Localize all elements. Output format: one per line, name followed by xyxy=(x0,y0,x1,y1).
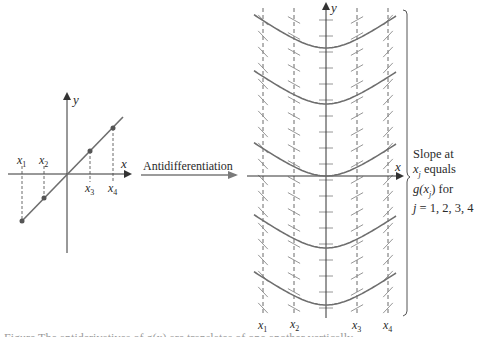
slope-mark xyxy=(258,207,268,217)
slope-mark xyxy=(383,111,393,121)
slope-note-line3: g(xj) for xyxy=(413,182,480,202)
antidifferentiation-label: Antidifferentiation xyxy=(143,159,233,173)
left-x-label: x xyxy=(120,156,127,171)
slope-note-line4: j = 1, 2, 3, 4 xyxy=(413,201,480,216)
slope-mark xyxy=(288,273,300,280)
slope-mark xyxy=(258,111,268,121)
point-x1 xyxy=(20,219,25,224)
slope-note-line2: xj equals xyxy=(413,162,480,182)
antiderivative-curve xyxy=(254,272,396,305)
point-x4 xyxy=(111,126,116,131)
left-label-x2: x2 xyxy=(38,153,48,169)
derivative-line xyxy=(21,117,123,222)
figure-caption: Figure The antiderivatives of g(x) are t… xyxy=(4,331,480,337)
slope-mark xyxy=(258,223,268,233)
right-y-label: y xyxy=(329,0,337,15)
slope-mark xyxy=(383,47,393,57)
right-x-label: x xyxy=(394,159,401,174)
antiderivative-curves xyxy=(254,15,396,305)
antiderivative-curve xyxy=(254,215,396,248)
antiderivative-family-graph: y x x1 x2 x3 x4 xyxy=(247,0,410,334)
left-label-x1: x1 xyxy=(16,153,26,169)
slope-mark xyxy=(288,49,300,56)
slope-mark xyxy=(383,223,393,233)
left-label-x4: x4 xyxy=(107,181,117,197)
slope-mark xyxy=(351,49,363,56)
derivative-graph: y x x1 x2 x3 x4 xyxy=(8,92,130,253)
slope-note-line1: Slope at xyxy=(413,147,480,162)
point-x2 xyxy=(42,196,47,201)
slope-mark xyxy=(258,95,268,105)
slope-mark xyxy=(258,159,268,169)
slope-mark xyxy=(351,273,363,280)
point-x3 xyxy=(88,149,93,154)
left-label-x3: x3 xyxy=(84,181,94,197)
antiderivative-curve xyxy=(254,71,396,104)
slope-mark xyxy=(383,95,393,105)
antidifferentiation-diagram: y x x1 x2 x3 x4 Antidifferentiation y x … xyxy=(0,0,480,337)
antidifferentiation-transition: Antidifferentiation xyxy=(141,159,236,175)
right-brace xyxy=(403,10,410,316)
slope-mark xyxy=(383,207,393,217)
slope-mark xyxy=(258,47,268,57)
left-y-label: y xyxy=(71,92,79,107)
slope-note: Slope at xj equals g(xj) for j = 1, 2, 3… xyxy=(413,147,480,216)
slope-mark xyxy=(383,159,393,169)
